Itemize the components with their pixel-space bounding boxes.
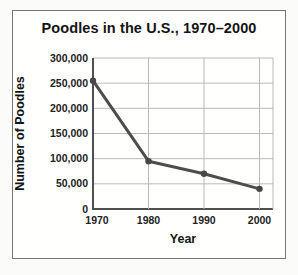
- data-point: [90, 77, 96, 83]
- data-point: [201, 171, 207, 177]
- y-tick-label: 300,000: [50, 52, 88, 64]
- x-tick-label: 1980: [137, 214, 161, 226]
- y-tick-label: 250,000: [50, 77, 88, 89]
- data-point: [256, 186, 262, 192]
- data-point: [145, 158, 151, 164]
- y-axis-title: Number of Poodles: [13, 76, 27, 191]
- y-tick-label: 50,000: [56, 177, 88, 189]
- y-tick-label: 200,000: [50, 102, 88, 114]
- y-tick-label: 150,000: [50, 127, 88, 139]
- x-axis-title: Year: [170, 232, 197, 246]
- poodle-line-chart: 050,000100,000150,000200,000250,000300,0…: [13, 11, 284, 257]
- y-tick-label: 100,000: [50, 152, 88, 164]
- x-tick-label: 1990: [192, 214, 216, 226]
- x-tick-label: 1970: [85, 214, 109, 226]
- chart-card: Poodles in the U.S., 1970–2000 050,00010…: [12, 10, 286, 259]
- y-tick-label: 0: [82, 203, 88, 215]
- x-tick-label: 2000: [248, 214, 272, 226]
- data-line: [93, 81, 260, 189]
